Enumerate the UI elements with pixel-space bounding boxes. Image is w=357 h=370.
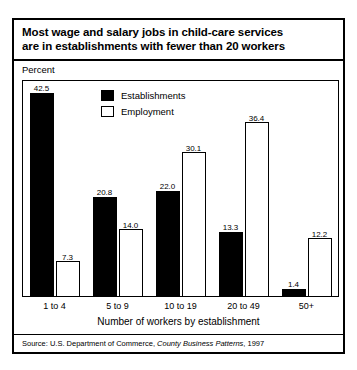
x-tick-label: 20 to 49 [227, 301, 260, 312]
bar-value-label: 7.3 [62, 253, 73, 262]
title-line-2: are in establishments with fewer than 20… [22, 39, 335, 53]
figure-frame: Most wage and salary jobs in child-care … [12, 18, 345, 354]
bar-group: 42.57.3 [30, 81, 80, 296]
legend-item-establishments: Establishments [101, 90, 185, 101]
legend-swatch-employment-icon [101, 106, 114, 117]
source-suffix: , 1997 [243, 339, 264, 348]
source-block: Source: U.S. Department of Commerce, Cou… [14, 334, 343, 352]
bar-group: 1.412.2 [282, 81, 332, 296]
plot-area: 42.57.320.814.022.030.113.336.41.412.2 E… [22, 80, 339, 297]
x-tick-label: 5 to 9 [106, 301, 129, 312]
bar-employment: 7.3 [56, 261, 80, 296]
bar-establishments: 42.5 [30, 93, 54, 296]
bar-value-label: 1.4 [288, 280, 299, 289]
bar-value-label: 20.8 [97, 188, 113, 197]
legend-item-employment: Employment [101, 106, 185, 117]
bar-establishments: 20.8 [93, 197, 117, 296]
legend-label-employment: Employment [121, 106, 174, 117]
y-axis-caption: Percent [22, 64, 55, 75]
source-note: Source: U.S. Department of Commerce, Cou… [22, 339, 343, 348]
source-publication: County Business Patterns [157, 339, 243, 348]
bar-value-label: 12.2 [312, 230, 328, 239]
bar-establishments: 13.3 [219, 232, 243, 296]
bar-value-label: 42.5 [34, 84, 50, 93]
bar-value-label: 22.0 [160, 182, 176, 191]
x-tick-label: 50+ [299, 301, 314, 312]
bar-employment: 30.1 [182, 152, 206, 296]
bar-value-label: 13.3 [223, 223, 239, 232]
bar-value-label: 14.0 [123, 221, 139, 230]
title-block: Most wage and salary jobs in child-care … [14, 20, 343, 61]
chart-legend: Establishments Employment [101, 90, 185, 122]
x-axis-tick-labels: 1 to 45 to 910 to 1920 to 4950+ [22, 301, 339, 313]
legend-label-establishments: Establishments [121, 90, 185, 101]
legend-swatch-establishments-icon [101, 90, 114, 101]
x-tick-label: 1 to 4 [43, 301, 66, 312]
source-prefix: Source: U.S. Department of Commerce, [22, 339, 157, 348]
bar-establishments: 22.0 [156, 191, 180, 296]
bar-value-label: 30.1 [186, 144, 202, 153]
bar-establishments: 1.4 [282, 289, 306, 296]
bar-employment: 12.2 [308, 238, 332, 296]
x-axis-title: Number of workers by establishment [14, 316, 343, 328]
x-tick-label: 10 to 19 [164, 301, 197, 312]
bar-group: 13.336.4 [219, 81, 269, 296]
bar-employment: 36.4 [245, 122, 269, 296]
title-line-1: Most wage and salary jobs in child-care … [22, 25, 335, 39]
bar-value-label: 36.4 [249, 114, 265, 123]
bar-employment: 14.0 [119, 229, 143, 296]
